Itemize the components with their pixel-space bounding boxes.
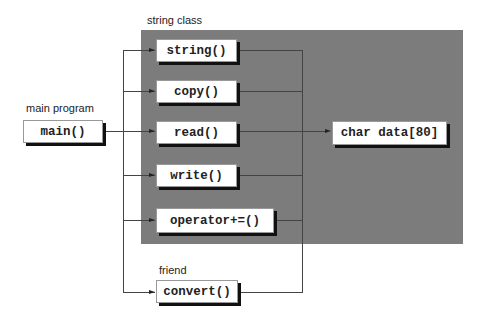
copy-method-box: copy(): [156, 80, 237, 103]
read-method-box: read(): [156, 121, 237, 144]
main-to-read-line: [103, 131, 155, 132]
string-class-label: string class: [147, 14, 202, 26]
convert-friend-box: convert(): [156, 280, 238, 303]
right-bus-line: [302, 50, 303, 293]
operator-method-box: operator+=(): [156, 208, 274, 233]
arrow-to-data-icon: [325, 129, 331, 133]
main-box: main(): [23, 120, 103, 143]
convert-to-bus-line: [238, 292, 302, 293]
write-to-bus-line: [237, 175, 302, 176]
string-constructor-box: string(): [156, 39, 237, 62]
read-to-data-line: [237, 131, 327, 132]
copy-to-bus-line: [237, 91, 302, 92]
write-method-box: write(): [156, 164, 237, 187]
main-program-label: main program: [26, 102, 94, 114]
arrow-to-copy-icon: [149, 89, 155, 93]
diagram-canvas: string class main program friend main() …: [0, 0, 487, 319]
arrow-to-write-icon: [149, 173, 155, 177]
arrow-to-convert-icon: [149, 290, 155, 294]
arrow-to-read-icon: [149, 129, 155, 133]
string-to-bus-line: [237, 50, 302, 51]
operator-to-bus-line: [275, 220, 302, 221]
arrow-to-string-icon: [149, 48, 155, 52]
char-data-box: char data[80]: [332, 121, 447, 145]
arrow-to-operator-icon: [149, 218, 155, 222]
friend-label: friend: [159, 264, 187, 276]
left-bus-line: [123, 50, 124, 293]
